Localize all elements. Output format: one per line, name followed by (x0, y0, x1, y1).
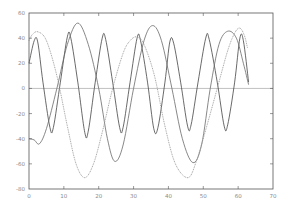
y-tick-label: -20 (16, 111, 25, 117)
y-tick-label: -80 (16, 186, 25, 192)
x-tick-label: 20 (95, 193, 102, 199)
y-tick-label: -60 (16, 161, 25, 167)
y-tick-label: 20 (18, 60, 25, 66)
line-series-dark (29, 32, 249, 138)
x-tick-label: 40 (165, 193, 172, 199)
y-tick-label: 40 (18, 35, 25, 41)
y-tick-label: -40 (16, 136, 25, 142)
x-tick-label: 50 (200, 193, 207, 199)
x-tick-label: 0 (27, 193, 31, 199)
x-tick-label: 10 (60, 193, 67, 199)
y-tick-label: 60 (18, 10, 25, 16)
plot-frame (29, 13, 273, 189)
y-axis: -80-60-40-200204060 (16, 10, 273, 192)
x-tick-label: 60 (235, 193, 242, 199)
series-layer (29, 23, 249, 178)
line-series-medium (29, 23, 249, 163)
line-series-light (29, 28, 248, 178)
line-chart: 010203040506070 -80-60-40-200204060 (0, 0, 289, 209)
y-tick-label: 0 (22, 85, 26, 91)
x-tick-label: 30 (130, 193, 137, 199)
x-tick-label: 70 (270, 193, 277, 199)
